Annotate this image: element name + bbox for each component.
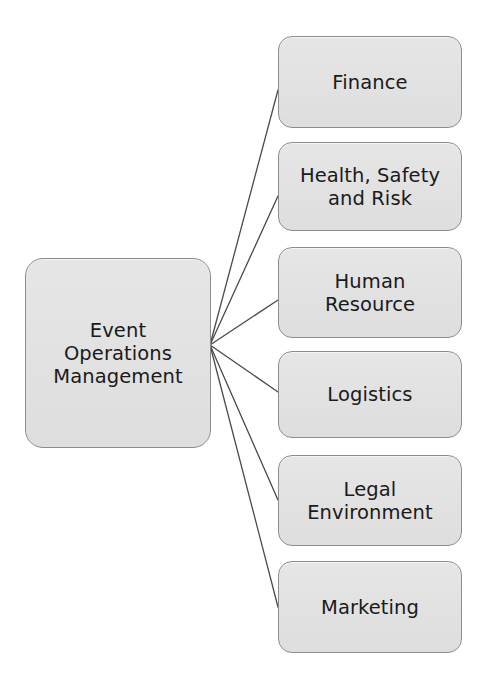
connector-root-to-hr	[210, 300, 278, 345]
node-label-legal-environment: Legal Environment	[301, 478, 439, 524]
node-label-root: Event Operations Management	[47, 319, 188, 388]
node-human-resource: Human Resource	[278, 247, 462, 338]
connector-root-to-health	[210, 196, 278, 345]
node-label-logistics: Logistics	[321, 383, 418, 406]
node-label-human-resource: Human Resource	[319, 270, 421, 316]
connector-root-to-logistics	[210, 345, 278, 392]
node-health-safety-and-risk: Health, Safety and Risk	[278, 142, 462, 231]
connector-root-to-marketing	[210, 345, 278, 607]
connector-root-to-finance	[210, 90, 278, 345]
node-label-finance: Finance	[326, 71, 413, 94]
connector-root-to-legal	[210, 345, 278, 500]
node-event-operations-management: Event Operations Management	[25, 258, 211, 448]
node-marketing: Marketing	[278, 561, 462, 653]
diagram-canvas: Event Operations Management Finance Heal…	[0, 0, 491, 686]
node-label-health: Health, Safety and Risk	[294, 164, 446, 210]
node-label-marketing: Marketing	[315, 596, 425, 619]
node-legal-environment: Legal Environment	[278, 455, 462, 546]
node-finance: Finance	[278, 36, 462, 128]
node-logistics: Logistics	[278, 351, 462, 438]
